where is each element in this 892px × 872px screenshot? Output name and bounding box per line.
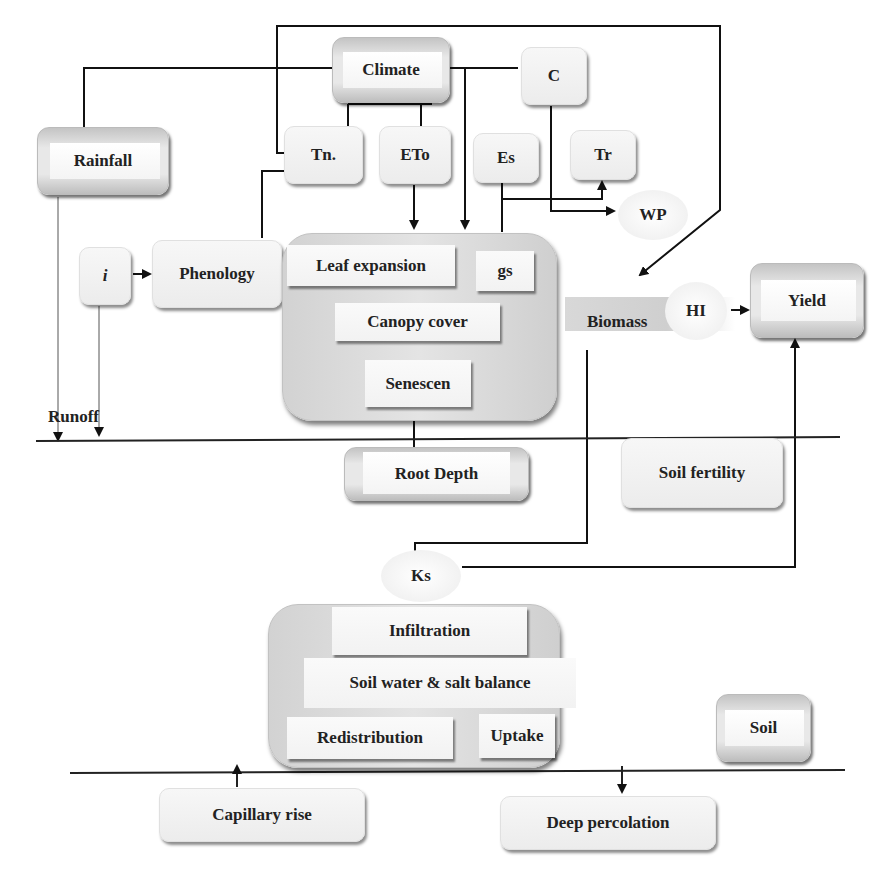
c-label: C [548,66,560,86]
gs-label: gs [497,261,512,281]
hi-node[interactable]: HI [665,282,727,340]
deep-percolation-label: Deep percolation [547,813,670,833]
c-node[interactable]: C [521,47,587,105]
leaf-expansion-label: Leaf expansion [316,256,426,276]
capillary-rise-node[interactable]: Capillary rise [159,788,365,842]
rainfall-node[interactable]: Rainfall [37,127,169,195]
yield-label: Yield [788,291,826,311]
es-node[interactable]: Es [473,133,539,183]
soil-water-container: Infiltration Soil water & salt balance R… [268,604,560,768]
crop-canopy-container: Leaf expansion gs Canopy cover Senescen [282,233,557,421]
redistribution-box[interactable]: Redistribution [287,717,453,759]
wp-label: WP [639,205,666,225]
uptake-label: Uptake [491,726,544,746]
wp-node[interactable]: WP [618,190,688,240]
capillary-rise-label: Capillary rise [212,805,312,825]
soil-water-salt-balance-label: Soil water & salt balance [349,673,530,693]
i-node[interactable]: i [79,247,131,305]
crop-model-diagram: Climate C Rainfall Tn. ETo Es Tr WP i Ph… [0,0,892,872]
uptake-box[interactable]: Uptake [479,714,555,758]
ks-node[interactable]: Ks [381,550,461,602]
senescence-box[interactable]: Senescen [365,360,471,407]
ks-label: Ks [411,566,431,586]
phenology-label: Phenology [179,264,255,284]
phenology-node[interactable]: Phenology [152,240,282,308]
deep-percolation-node[interactable]: Deep percolation [500,796,716,850]
canopy-cover-label: Canopy cover [367,312,468,332]
soil-label: Soil [750,718,777,738]
climate-label: Climate [362,60,420,80]
biomass-label: Biomass [587,312,647,332]
infiltration-label: Infiltration [389,621,470,641]
leaf-expansion-box[interactable]: Leaf expansion [287,245,455,286]
climate-node[interactable]: Climate [332,37,450,103]
senescence-label: Senescen [385,374,450,394]
eto-node[interactable]: ETo [379,126,451,184]
infiltration-box[interactable]: Infiltration [332,607,527,655]
redistribution-label: Redistribution [317,728,423,748]
root-depth-label: Root Depth [395,464,479,484]
soil-fertility-label: Soil fertility [659,463,745,483]
root-depth-node[interactable]: Root Depth [344,447,529,501]
es-label: Es [497,148,515,168]
canopy-cover-box[interactable]: Canopy cover [335,303,500,341]
tn-node[interactable]: Tn. [284,126,363,184]
runoff-label: Runoff [48,407,99,427]
soil-water-salt-balance-box[interactable]: Soil water & salt balance [304,658,576,708]
hi-label: HI [686,301,706,321]
soil-node[interactable]: Soil [716,694,811,762]
tr-label: Tr [594,145,612,165]
gs-box[interactable]: gs [476,251,534,291]
eto-label: ETo [400,145,430,165]
yield-node[interactable]: Yield [750,263,864,338]
i-label: i [103,266,108,286]
tn-label: Tn. [311,145,336,165]
tr-node[interactable]: Tr [570,130,636,180]
rainfall-label: Rainfall [74,151,133,171]
soil-fertility-node[interactable]: Soil fertility [621,438,783,508]
